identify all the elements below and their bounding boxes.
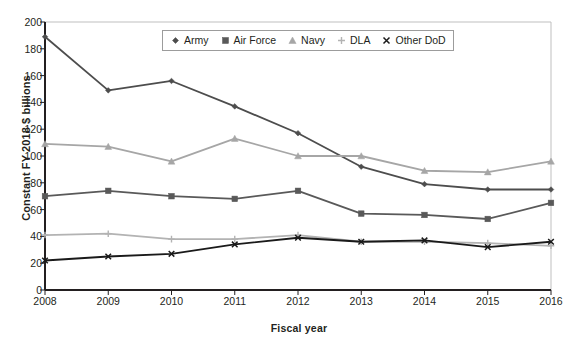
data-point-diamond-marker [548,187,554,193]
line-chart: Constant FY 2018 $ billions 020406080100… [0,0,578,342]
data-point-square-marker [422,212,428,218]
data-point-square-marker [295,188,301,194]
legend-item-air-force[interactable]: Air Force [220,35,277,46]
legend-item-label: DLA [350,35,370,46]
data-point-square-marker [169,193,175,199]
legend-marker-x [381,35,392,46]
data-point-square-marker [358,211,364,217]
data-point-diamond-marker [422,181,428,187]
triangle-marker-shape [289,37,296,44]
x-axis-tick-label: 2016 [526,296,576,307]
square-marker-icon [220,35,231,46]
legend-item-label: Navy [301,35,325,46]
legend-item-army[interactable]: Army [170,35,209,46]
data-point-plus-marker [42,232,49,239]
data-point-square-marker [548,200,554,206]
series-air-force [42,188,554,222]
x-axis-title: Fiscal year [42,322,556,334]
series-army [42,34,554,192]
chart-legend: ArmyAir ForceNavyDLAOther DoD [162,30,454,51]
legend-item-label: Air Force [234,35,277,46]
x-axis-tick-label: 2014 [400,296,450,307]
data-point-square-marker [485,216,491,222]
x-axis-tick-label: 2012 [273,296,323,307]
data-point-plus-marker [168,236,175,243]
x-axis-tick-label: 2013 [336,296,386,307]
legend-item-label: Other DoD [395,35,445,46]
square-marker-shape [222,38,228,44]
series-line [45,191,551,219]
data-point-diamond-marker [232,104,238,110]
data-point-diamond-marker [169,78,175,84]
x-axis-tick-label: 2011 [210,296,260,307]
legend-item-other-dod[interactable]: Other DoD [381,35,445,46]
x-marker-icon [381,35,392,46]
x-axis-tick-label: 2015 [463,296,513,307]
legend-marker-square [220,35,231,46]
legend-item-navy[interactable]: Navy [287,35,325,46]
series-line [45,238,551,261]
x-axis-tick-label: 2009 [83,296,133,307]
triangle-marker-icon [287,35,298,46]
x-axis-tick-label: 2008 [20,296,70,307]
plus-marker-icon [336,35,347,46]
data-point-square-marker [232,196,238,202]
x-axis-tick-label: 2010 [147,296,197,307]
series-line [45,37,551,190]
plot-area [0,0,578,342]
legend-marker-triangle [287,35,298,46]
legend-item-label: Army [184,35,209,46]
x-marker-shape [384,38,390,44]
legend-item-dla[interactable]: DLA [336,35,370,46]
x-axis-tick-labels: 200820092010201120122013201420152016 [0,296,578,316]
data-point-square-marker [42,193,48,199]
diamond-marker-icon [170,35,181,46]
data-point-square-marker [105,188,111,194]
plus-marker-shape [338,37,345,44]
series-other-dod [42,235,554,263]
data-point-diamond-marker [485,187,491,193]
legend-marker-plus [336,35,347,46]
diamond-marker-shape [173,38,179,44]
data-point-plus-marker [105,230,112,237]
legend-marker-diamond [170,35,181,46]
series-navy [42,135,555,175]
